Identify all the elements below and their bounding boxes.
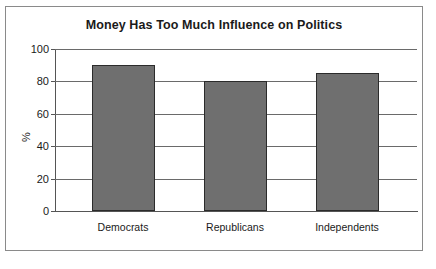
- chart-title: Money Has Too Much Influence on Politics: [5, 18, 423, 32]
- gridline-100: 100: [55, 49, 417, 50]
- y-axis-title-text: %: [20, 132, 32, 142]
- y-tick-mark-100: [51, 49, 55, 50]
- bar-republicans[interactable]: [204, 81, 267, 211]
- x-tick-label-republicans: Republicans: [206, 221, 264, 233]
- gridline-0: 0: [55, 211, 417, 212]
- y-tick-label-60: 60: [37, 108, 49, 119]
- y-tick-label-100: 100: [31, 44, 49, 55]
- y-tick-mark-20: [51, 179, 55, 180]
- y-tick-mark-80: [51, 81, 55, 82]
- chart-figure: Money Has Too Much Influence on Politics…: [0, 0, 436, 269]
- y-tick-label-40: 40: [37, 141, 49, 152]
- x-tick-label-independents: Independents: [315, 221, 379, 233]
- y-axis-title: %: [14, 122, 38, 152]
- plot-area: 100 80 60 40 20 0: [55, 49, 417, 211]
- x-tick-label-democrats: Democrats: [98, 221, 149, 233]
- bar-democrats[interactable]: [92, 65, 155, 211]
- y-tick-label-20: 20: [37, 173, 49, 184]
- bar-independents[interactable]: [316, 73, 379, 211]
- y-tick-label-0: 0: [43, 206, 49, 217]
- y-tick-mark-40: [51, 146, 55, 147]
- y-tick-mark-60: [51, 114, 55, 115]
- y-tick-label-80: 80: [37, 76, 49, 87]
- y-tick-mark-0: [51, 211, 55, 212]
